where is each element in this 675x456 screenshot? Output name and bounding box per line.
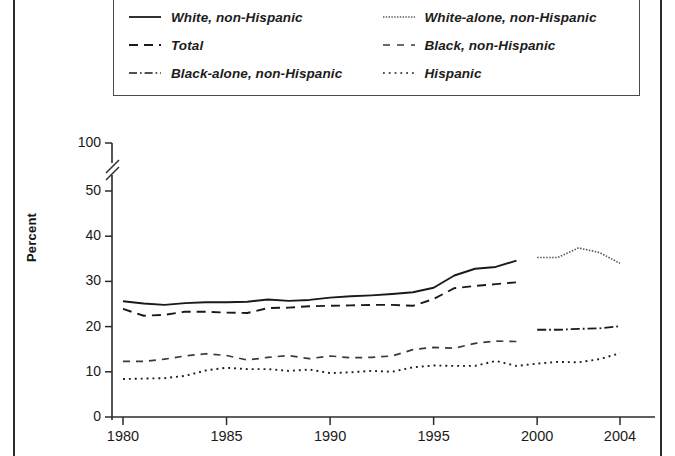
series-line-2: [537, 248, 620, 263]
legend-swatch-solid: [128, 12, 162, 22]
legend-item-white-non-hispanic: White, non-Hispanic: [128, 3, 372, 31]
legend-label: Black-alone, non-Hispanic: [171, 66, 342, 81]
legend-swatch-long-dashed: [382, 40, 416, 50]
page-border-right: [660, 0, 662, 456]
legend-label: Black, non-Hispanic: [425, 38, 556, 53]
legend-swatch-dash-dot: [128, 68, 162, 78]
y-tick-label: 20: [61, 318, 101, 334]
legend-item-white-alone-non-hispanic: White-alone, non-Hispanic: [382, 3, 626, 31]
legend-label: White, non-Hispanic: [171, 10, 303, 25]
y-tick-label-top: 100: [61, 134, 101, 150]
page-border-left: [13, 0, 15, 456]
y-tick-label: 0: [61, 408, 101, 424]
legend-label: Hispanic: [425, 66, 482, 81]
y-tick-label: 30: [61, 272, 101, 288]
x-tick-label: 2004: [590, 428, 650, 444]
legend-label: Total: [171, 38, 203, 53]
legend-item-black-alone-non-hispanic: Black-alone, non-Hispanic: [128, 59, 372, 87]
series-line-5: [123, 341, 516, 361]
chart-figure: White, non-Hispanic White-alone, non-His…: [0, 0, 675, 456]
x-tick-label: 1990: [300, 428, 360, 444]
legend-swatch-fine-dotted: [382, 12, 416, 22]
legend-item-total: Total: [128, 31, 372, 59]
series-line-6: [123, 353, 620, 379]
x-tick-label: 1980: [93, 428, 153, 444]
y-tick-label: 50: [61, 182, 101, 198]
legend-label: White-alone, non-Hispanic: [425, 10, 597, 25]
series-line-4: [537, 326, 620, 330]
axis-break-marks: [106, 160, 119, 180]
y-ticks: [105, 143, 112, 417]
y-axis-title: Percent: [24, 213, 39, 262]
y-tick-label: 10: [61, 363, 101, 379]
x-tick-label: 1995: [404, 428, 464, 444]
x-tick-label: 2000: [507, 428, 567, 444]
y-tick-label: 40: [61, 227, 101, 243]
series-line-1: [123, 261, 516, 305]
legend-item-hispanic: Hispanic: [382, 59, 626, 87]
axes: [112, 143, 655, 420]
chart-legend: White, non-Hispanic White-alone, non-His…: [113, 0, 640, 96]
series-line-3: [123, 282, 516, 315]
x-tick-label: 1985: [197, 428, 257, 444]
x-ticks: [123, 417, 620, 425]
legend-item-black-non-hispanic: Black, non-Hispanic: [382, 31, 626, 59]
legend-swatch-dashed: [128, 40, 162, 50]
legend-swatch-dotted: [382, 68, 416, 78]
